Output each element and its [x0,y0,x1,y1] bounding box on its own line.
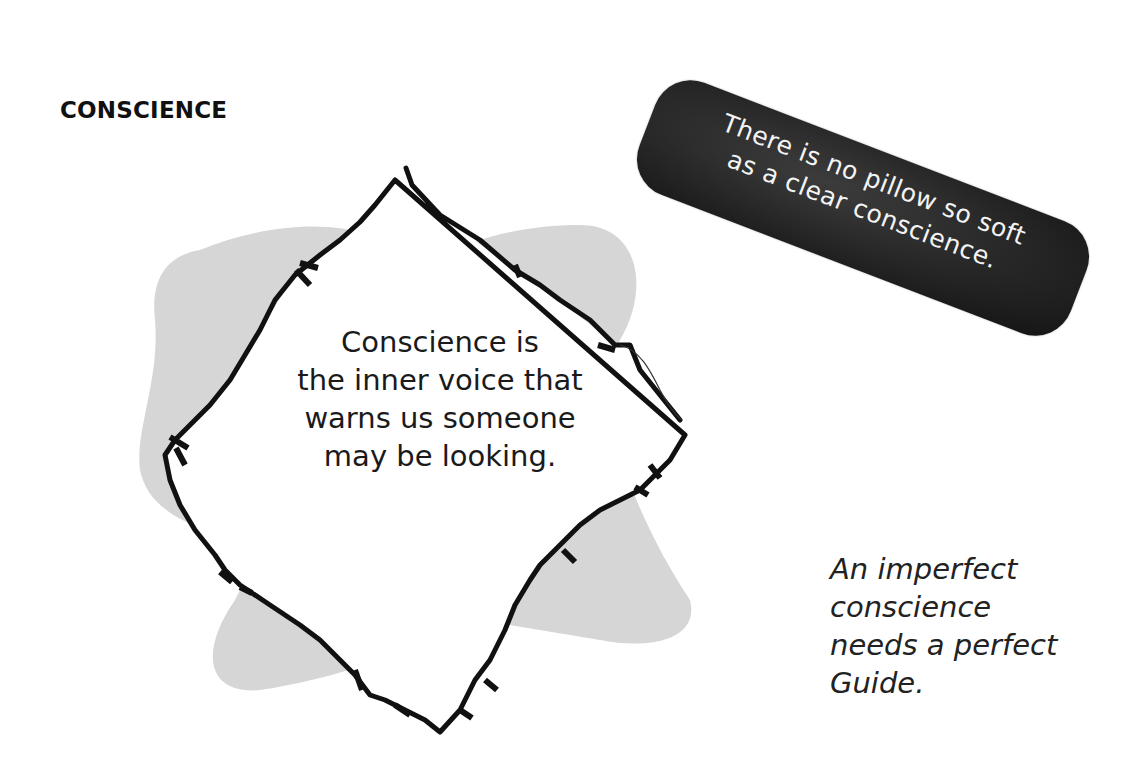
center-quote: Conscience is the inner voice that warns… [230,323,650,475]
center-quote-line: the inner voice that [230,361,650,399]
center-quote-line: may be looking. [230,437,650,475]
side-quote-line: conscience [830,588,1130,626]
center-quote-line: warns us someone [230,399,650,437]
side-quote-line: needs a perfect [830,626,1130,664]
side-quote-line: Guide. [830,664,1130,702]
side-quote-line: An imperfect [830,550,1130,588]
center-quote-line: Conscience is [230,323,650,361]
side-quote: An imperfect conscience needs a perfect … [830,550,1130,702]
